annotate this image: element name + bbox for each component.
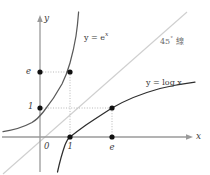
point-0-1 bbox=[37, 105, 42, 110]
x-tick-label-e: e bbox=[110, 143, 115, 152]
exponential-curve-label-text: y = e bbox=[84, 33, 105, 42]
identity-line-label-suffix: 線 bbox=[176, 37, 184, 46]
exponential-curve-label: y = ex bbox=[84, 31, 108, 42]
guide-lines-group bbox=[40, 72, 112, 137]
degree-sign-icon: ° bbox=[170, 35, 173, 41]
logarithm-curve-group bbox=[58, 82, 196, 172]
x-axis-arrowhead bbox=[186, 134, 193, 140]
logarithm-curve bbox=[58, 82, 196, 172]
y-tick-label-e: e bbox=[26, 67, 31, 76]
point-e-0 bbox=[109, 134, 114, 139]
identity-line-label-number: 45 bbox=[160, 37, 170, 46]
x-axis-label: x bbox=[196, 132, 201, 141]
point-e-1 bbox=[109, 105, 114, 110]
identity-line-label: 45°線 bbox=[160, 36, 184, 46]
y-tick-label-1: 1 bbox=[28, 102, 33, 111]
point-1-0 bbox=[67, 134, 72, 139]
x-axis-group bbox=[2, 134, 193, 140]
point-0-e bbox=[37, 69, 42, 74]
point-1-e bbox=[67, 69, 72, 74]
logarithm-curve-label: y = log x bbox=[146, 79, 182, 87]
y-axis-label: y bbox=[44, 14, 49, 23]
origin-label: 0 bbox=[44, 142, 49, 151]
y-axis-arrowhead bbox=[37, 15, 43, 22]
y-axis-group bbox=[37, 15, 43, 172]
exponential-curve-label-exponent: x bbox=[105, 30, 108, 37]
plot-svg bbox=[0, 0, 210, 175]
figure-canvas: y x 0 1 e e 1 y = ex y = log x 45°線 bbox=[0, 0, 210, 175]
x-tick-label-1: 1 bbox=[68, 142, 73, 151]
